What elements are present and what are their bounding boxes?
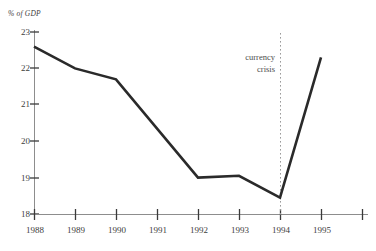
y-axis-label-23: 23 bbox=[12, 28, 30, 37]
x-axis-label-1990: 1990 bbox=[97, 226, 137, 235]
y-axis-label-18: 18 bbox=[12, 210, 30, 219]
y-axis bbox=[30, 30, 39, 215]
chart-container: % of GDP 23 22 21 20 19 18 bbox=[0, 0, 376, 251]
x-axis-label-1991: 1991 bbox=[138, 226, 178, 235]
x-axis-label-1992: 1992 bbox=[179, 226, 219, 235]
x-axis bbox=[34, 209, 368, 220]
currency-crisis-annotation-line2: crisis bbox=[205, 64, 275, 75]
x-axis-label-1988: 1988 bbox=[15, 226, 55, 235]
x-axis-label-1989: 1989 bbox=[56, 226, 96, 235]
x-axis-label-1995: 1995 bbox=[302, 226, 342, 235]
y-axis-label-19: 19 bbox=[12, 174, 30, 183]
x-axis-label-1993: 1993 bbox=[220, 226, 260, 235]
y-axis-label-22: 22 bbox=[12, 64, 30, 73]
y-axis-label-20: 20 bbox=[12, 137, 30, 146]
gdp-series-line bbox=[34, 47, 321, 198]
chart-plot-area bbox=[0, 0, 376, 251]
currency-crisis-annotation-line1: currency bbox=[205, 52, 275, 63]
x-axis-label-1994: 1994 bbox=[261, 226, 301, 235]
y-axis-label-21: 21 bbox=[12, 100, 30, 109]
